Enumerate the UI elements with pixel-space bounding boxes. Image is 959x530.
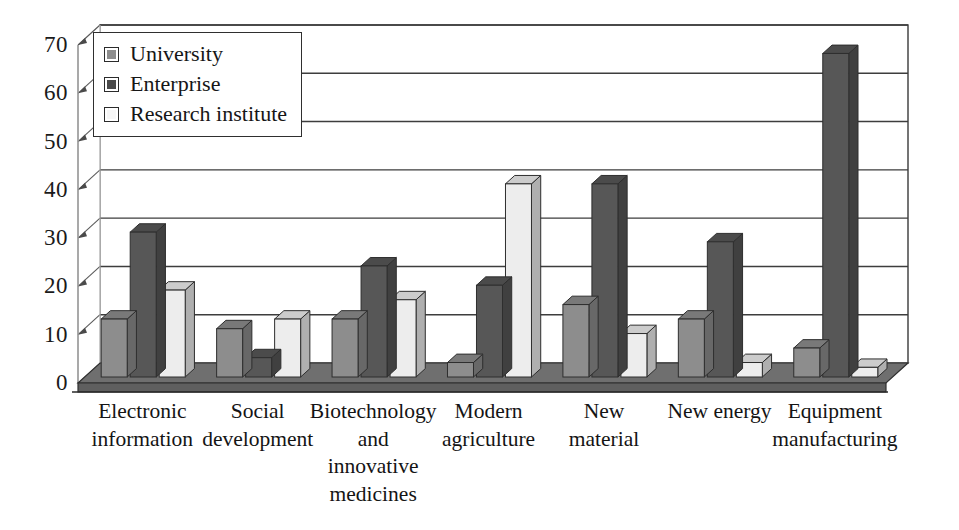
bar-0-6 <box>794 340 829 377</box>
bar-0-1 <box>217 320 252 377</box>
bar-0-5 <box>678 311 713 377</box>
y-axis-tick-label: 70 <box>44 33 68 56</box>
legend-swatch-icon <box>104 47 119 62</box>
x-axis-category-label: Electronic information <box>79 398 206 453</box>
legend-item-label: University <box>130 43 223 65</box>
x-axis-category-label: Equipment manufacturing <box>771 398 898 453</box>
bar-0-4 <box>563 296 598 377</box>
x-axis-category-label: Biotechnology and innovative medicines <box>309 398 436 508</box>
legend: UniversityEnterpriseResearch institute <box>93 32 302 137</box>
y-axis-tick-label: 20 <box>44 274 68 297</box>
bar-chart: 010203040506070 Electronic informationSo… <box>0 0 959 530</box>
bar-0-2 <box>332 311 367 377</box>
bar-0-0 <box>101 311 136 377</box>
legend-item: University <box>104 39 287 69</box>
y-axis-tick-label: 0 <box>56 371 68 394</box>
x-axis-category-label: New energy <box>656 398 783 426</box>
legend-item-label: Research institute <box>130 103 287 125</box>
y-axis-tick-label: 60 <box>44 81 68 104</box>
y-axis-tick-label: 50 <box>44 130 68 153</box>
legend-item: Enterprise <box>104 69 287 99</box>
y-axis-tick-label: 10 <box>44 323 68 346</box>
y-axis-tick-label: 40 <box>44 178 68 201</box>
y-axis-tick-label: 30 <box>44 226 68 249</box>
chart-floor-front <box>78 383 886 392</box>
bar-0-3 <box>447 354 482 377</box>
x-axis-category-label: New material <box>540 398 667 453</box>
bar-1-6 <box>823 45 858 377</box>
legend-swatch-icon <box>104 77 119 92</box>
legend-swatch-icon <box>104 107 119 122</box>
x-axis-category-label: Social development <box>194 398 321 453</box>
x-axis-category-label: Modern agriculture <box>425 398 552 453</box>
legend-item-label: Enterprise <box>130 73 220 95</box>
legend-item: Research institute <box>104 99 287 129</box>
